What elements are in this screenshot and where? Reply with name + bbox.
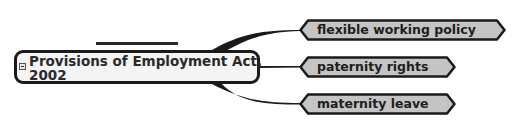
branch-node-maternity-leave[interactable]: maternity leave	[299, 93, 457, 115]
branch-label: flexible working policy	[317, 22, 476, 38]
minus-box-icon[interactable]	[19, 63, 26, 70]
central-topic-node[interactable]: Provisions of Employment Act, 2002	[14, 50, 260, 84]
connector-paternity-rights	[258, 66, 300, 68]
branch-label: paternity rights	[317, 59, 428, 75]
connector-maternity-leave	[212, 84, 300, 105]
branch-label: maternity leave	[317, 96, 429, 112]
central-topic-label: Provisions of Employment Act, 2002	[29, 54, 262, 82]
branch-node-flexible-working-policy[interactable]: flexible working policy	[299, 19, 507, 41]
central-topic-overline	[96, 42, 178, 45]
connector-flexible-working-policy	[212, 30, 300, 52]
mind-map-canvas: Provisions of Employment Act, 2002 flexi…	[0, 0, 518, 124]
branch-node-paternity-rights[interactable]: paternity rights	[299, 56, 457, 78]
